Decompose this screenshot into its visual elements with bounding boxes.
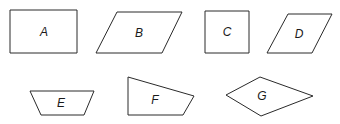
shape-g-outline xyxy=(226,77,313,116)
shape-a: A xyxy=(10,10,77,53)
shape-e-label: E xyxy=(57,96,66,110)
shape-g: G xyxy=(226,77,313,116)
shape-c-label: C xyxy=(223,25,232,39)
shape-f-outline xyxy=(128,77,194,115)
shape-d-label: D xyxy=(295,27,304,41)
shape-b-label: B xyxy=(135,26,143,40)
shape-a-label: A xyxy=(39,25,48,39)
shape-b: B xyxy=(96,12,182,53)
shape-g-label: G xyxy=(257,89,266,103)
shape-f: F xyxy=(128,77,194,115)
shape-d: D xyxy=(267,14,332,53)
shape-e: E xyxy=(30,91,94,115)
shape-f-label: F xyxy=(151,93,159,107)
shapes-diagram: A B C D E F G xyxy=(0,0,340,124)
shape-c: C xyxy=(205,11,249,53)
